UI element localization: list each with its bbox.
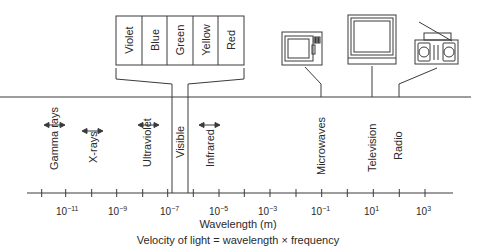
band-label-infrared: Infrared	[204, 129, 216, 167]
tick-label: 103	[416, 205, 431, 217]
color-label-violet: Violet	[123, 26, 135, 53]
microwave-icon	[282, 32, 322, 97]
band-label-television: Television	[366, 124, 378, 172]
tick-label: 10−7	[160, 205, 179, 217]
color-label-yellow: Yellow	[200, 24, 212, 55]
band-labels: Gamma rays X-rays Ultraviolet Visible In…	[48, 107, 404, 175]
tick-label: 10−5	[209, 205, 228, 217]
range-arrows	[44, 123, 220, 134]
band-label-microwaves: Microwaves	[315, 116, 327, 175]
visible-funnel-right	[188, 68, 244, 193]
band-label-radio: Radio	[392, 131, 404, 160]
band-label-ultraviolet: Ultraviolet	[141, 118, 153, 167]
tick-label: 10−1	[311, 205, 330, 217]
band-label-gamma: Gamma rays	[48, 107, 60, 170]
axis-label: Wavelength (m)	[199, 218, 276, 230]
television-icon	[348, 15, 396, 97]
tick-label: 101	[364, 205, 379, 217]
band-label-visible: Visible	[174, 126, 186, 158]
color-label-blue: Blue	[149, 29, 161, 51]
visible-color-labels: Violet Blue Green Yellow Red	[123, 24, 237, 55]
tick-label: 10−3	[258, 205, 277, 217]
radio-icon	[399, 22, 458, 97]
band-label-xrays: X-rays	[87, 131, 99, 163]
color-label-red: Red	[225, 30, 237, 50]
caption: Velocity of light = wavelength × frequen…	[137, 234, 340, 246]
tick-label: 10−9	[108, 205, 127, 217]
axis-tick-labels: 10−11 10−9 10−7 10−5 10−3 10−1 101 103	[56, 205, 431, 217]
color-label-green: Green	[174, 25, 186, 56]
tick-label: 10−11	[56, 205, 79, 217]
em-spectrum-diagram: Violet Blue Green Yellow Red Gamma rays …	[0, 0, 480, 249]
